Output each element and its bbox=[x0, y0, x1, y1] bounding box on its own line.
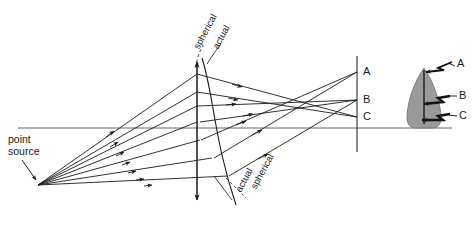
screen-label-b: B bbox=[363, 93, 370, 105]
incident-ray bbox=[38, 122, 197, 185]
ray-arrow bbox=[236, 121, 246, 125]
screen-label-c: C bbox=[363, 110, 371, 122]
ray-arrow bbox=[106, 131, 114, 137]
spot-label-a: A bbox=[457, 57, 464, 69]
reflected-ray-to-a bbox=[201, 72, 357, 140]
point-source-pointer bbox=[22, 160, 36, 180]
reflected-ray-arrowheads bbox=[226, 84, 268, 159]
spot-leader-a bbox=[448, 63, 455, 66]
ray-arrow bbox=[122, 162, 130, 165]
optics-ray-diagram bbox=[0, 0, 474, 229]
diagram-canvas: point source spherical actual spherical … bbox=[0, 0, 474, 229]
point-source-label: point source bbox=[8, 134, 40, 158]
screen-label-a: A bbox=[363, 65, 370, 77]
ray-arrow bbox=[144, 185, 152, 186]
ray-arrow bbox=[252, 130, 262, 135]
reflected-ray-group bbox=[197, 72, 357, 176]
incident-ray bbox=[38, 106, 197, 185]
actual-bottom-leader bbox=[214, 176, 232, 200]
spot-label-c: C bbox=[459, 109, 467, 121]
incident-ray-arrowheads bbox=[106, 131, 152, 186]
spot-leader-c bbox=[449, 115, 457, 116]
incident-ray bbox=[38, 74, 197, 185]
incident-ray-group bbox=[38, 74, 228, 185]
reflected-ray-to-b bbox=[229, 100, 357, 176]
incident-ray bbox=[38, 92, 197, 185]
spot-label-b: B bbox=[459, 89, 466, 101]
